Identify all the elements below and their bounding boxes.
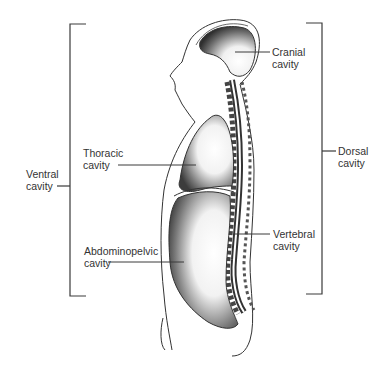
- thoracic-cavity-shape: [179, 115, 233, 191]
- dorsal-cavity-label: Dorsal cavity: [338, 145, 368, 169]
- cranial-cavity-shape: [200, 27, 256, 77]
- thoracic-cavity-label: Thoracic cavity: [83, 147, 123, 171]
- dorsal-bracket: [306, 23, 336, 294]
- vertebral-cavity-label: Vertebral cavity: [273, 228, 315, 252]
- anatomy-figure: [0, 0, 391, 391]
- ventral-bracket: [57, 24, 86, 296]
- abdominopelvic-cavity-label: Abdominopelvic cavity: [84, 245, 158, 269]
- ventral-cavity-label: Ventral cavity: [26, 168, 59, 192]
- spinal-column: [227, 80, 254, 314]
- body-cavities-diagram: Cranial cavity Thoracic cavity Ventral c…: [0, 0, 391, 391]
- cranial-cavity-label: Cranial cavity: [272, 46, 305, 70]
